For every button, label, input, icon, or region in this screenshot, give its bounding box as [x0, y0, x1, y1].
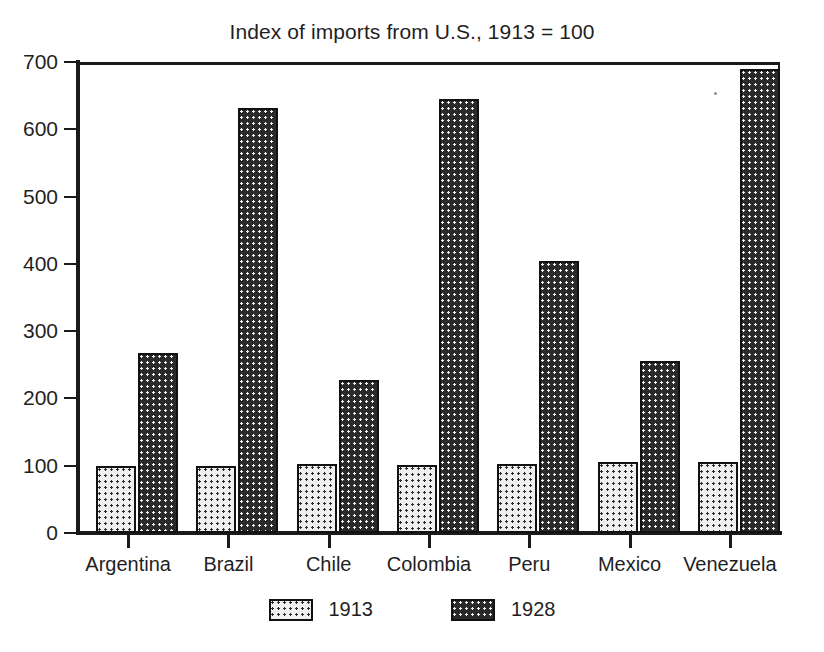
- bar-venezuela-1913: [698, 462, 738, 533]
- x-axis-tick: [127, 535, 130, 548]
- y-axis-tick-label: 200: [0, 387, 58, 408]
- bar-peru-1928: [539, 261, 579, 533]
- bar-chart: Index of imports from U.S., 1913 = 100 0…: [0, 0, 824, 652]
- y-axis-tick: [64, 397, 78, 399]
- legend-label-1913: 1913: [329, 598, 374, 621]
- x-axis-tick: [729, 535, 732, 548]
- bar-mexico-1928: [640, 361, 680, 533]
- legend-item-1928[interactable]: 1928: [451, 598, 556, 621]
- bar-venezuela-1928: [740, 69, 780, 533]
- scan-speck: [714, 92, 717, 95]
- y-axis-tick: [64, 128, 78, 130]
- bar-argentina-1928: [138, 353, 178, 533]
- y-axis-tick: [64, 532, 78, 534]
- x-axis-category-label: Chile: [306, 553, 352, 575]
- legend-swatch-1913: [269, 599, 313, 621]
- x-axis-tick: [528, 535, 531, 548]
- x-axis-category-label: Mexico: [598, 553, 661, 575]
- chart-legend: 19131928: [0, 598, 824, 621]
- legend-swatch-1928: [451, 599, 495, 621]
- y-axis-tick-label: 500: [0, 186, 58, 207]
- x-axis-category-label: Peru: [508, 553, 550, 575]
- y-axis-tick: [64, 465, 78, 467]
- legend-label-1928: 1928: [511, 598, 556, 621]
- bar-argentina-1913: [96, 466, 136, 533]
- bar-brazil-1913: [196, 466, 236, 533]
- x-axis-tick: [328, 535, 331, 548]
- y-axis-tick-label: 600: [0, 118, 58, 139]
- y-axis-tick: [64, 61, 78, 63]
- chart-title: Index of imports from U.S., 1913 = 100: [0, 20, 824, 44]
- y-axis-tick-label: 700: [0, 51, 58, 72]
- y-axis-tick: [64, 330, 78, 332]
- bar-chile-1928: [339, 380, 379, 533]
- bar-colombia-1928: [439, 99, 479, 533]
- x-axis-category-label: Colombia: [387, 553, 471, 575]
- y-axis-tick-label: 400: [0, 253, 58, 274]
- y-axis-tick: [64, 196, 78, 198]
- legend-item-1913[interactable]: 1913: [269, 598, 374, 621]
- y-axis-tick-label: 300: [0, 320, 58, 341]
- bar-brazil-1928: [238, 108, 278, 533]
- x-axis-category-label: Venezuela: [683, 553, 776, 575]
- x-axis-tick: [227, 535, 230, 548]
- y-axis-tick-label: 100: [0, 455, 58, 476]
- x-axis-tick: [629, 535, 632, 548]
- bar-peru-1913: [497, 464, 537, 533]
- x-axis-category-label: Argentina: [85, 553, 171, 575]
- bar-mexico-1913: [598, 462, 638, 533]
- x-axis-tick: [428, 535, 431, 548]
- bar-colombia-1913: [397, 465, 437, 533]
- x-axis-category-label: Brazil: [203, 553, 253, 575]
- y-axis-tick-label: 0: [0, 522, 58, 543]
- bar-chile-1913: [297, 464, 337, 533]
- y-axis-tick: [64, 263, 78, 265]
